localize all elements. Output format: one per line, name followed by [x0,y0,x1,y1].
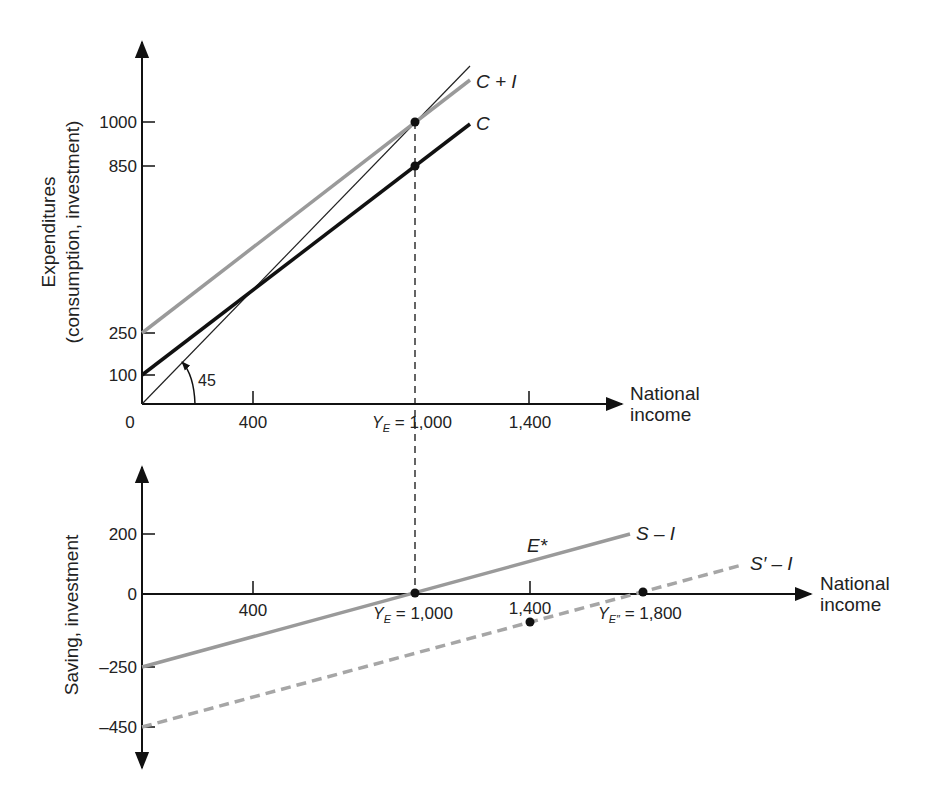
bottom-x-tick-1400: 1,400 [509,599,552,618]
top-y-axis-title: Expenditures (consumption, investment) [38,121,83,344]
bottom-y-axis-title: Saving, investment [61,534,82,695]
angle-arc [182,362,195,404]
s-prime-minus-i-line [142,565,742,727]
keynesian-cross-chart: 1000 850 250 100 0 400 YE = 1,000 1,400 … [0,0,934,801]
top-x-axis-title-line1: National [630,383,700,404]
equilibrium-point-1000 [411,118,420,127]
s-prime-minus-i-label: S′ – I [750,553,793,574]
y-tick-250: 250 [109,324,137,343]
svg-text:(consumption, investment): (consumption, investment) [62,121,83,344]
angle-label: 45 [198,372,216,389]
bottom-x-ticks [253,581,530,594]
c-plus-i-label: C + I [476,71,517,92]
y-tick-100: 100 [109,366,137,385]
consumption-point-850 [411,162,420,171]
equilibrium-point-ye2 [639,588,648,597]
equilibrium-point-ye [411,589,420,598]
y-tick-850: 850 [109,157,137,176]
top-x-ticks [253,391,529,404]
bottom-x-tick-ye: YE = 1,000 [373,604,453,625]
top-y-ticks [142,122,155,375]
top-x-axis-title-line2: income [630,404,691,425]
y-tick-1000: 1000 [99,113,137,132]
bottom-x-axis-title-line1: National [820,573,890,594]
x-tick-400: 400 [239,413,267,432]
s-minus-i-label: S – I [636,523,676,544]
y-tick-minus-250: –250 [99,658,137,677]
bottom-y-ticks [142,534,155,727]
y-tick-200: 200 [109,525,137,544]
bottom-x-axis-title-line2: income [820,594,881,615]
bottom-panel: 200 0 –250 –450 400 YE = 1,000 1,400 YE″… [61,467,890,768]
consumption-line [142,124,470,375]
c-plus-i-line [142,80,470,333]
origin-label: 0 [125,413,134,432]
top-panel: 1000 850 250 100 0 400 YE = 1,000 1,400 … [38,42,700,594]
s-minus-i-line [142,534,630,667]
point-1400 [526,618,535,627]
x-tick-ye: YE = 1,000 [372,413,452,434]
consumption-label: C [476,113,490,134]
x-tick-1400: 1,400 [509,413,552,432]
y-tick-0: 0 [128,585,137,604]
y-tick-minus-450: –450 [99,718,137,737]
bottom-x-tick-400: 400 [239,601,267,620]
bottom-x-tick-ye2: YE″ = 1,800 [598,604,682,625]
e-star-label: E* [527,535,548,556]
svg-text:Expenditures: Expenditures [38,177,59,288]
